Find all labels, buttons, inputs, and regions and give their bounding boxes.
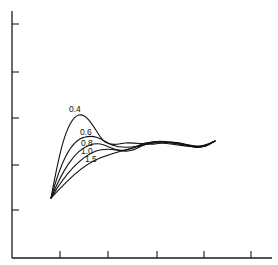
line-chart: 0.4 0.6 0.8 1.0 1.5 bbox=[0, 0, 278, 265]
y-ticks bbox=[12, 24, 19, 210]
curves bbox=[51, 115, 215, 198]
curve-1-0 bbox=[51, 141, 215, 198]
axes bbox=[12, 11, 272, 258]
curve-labels: 0.4 0.6 0.8 1.0 1.5 bbox=[69, 104, 97, 164]
curve-label-1-5: 1.5 bbox=[85, 154, 97, 164]
curve-label-0-6: 0.6 bbox=[80, 127, 92, 137]
curve-label-0-4: 0.4 bbox=[69, 104, 81, 114]
curve-0-4 bbox=[51, 115, 215, 198]
x-ticks bbox=[60, 251, 251, 258]
